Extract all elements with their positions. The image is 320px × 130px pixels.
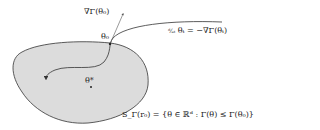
sublevel-set-label: S_Γ(r₀) = {θ ∈ ℝᵈ : Γ(θ) ≤ Γ(θ₀)} bbox=[122, 111, 254, 119]
flow-derivative: ᵈ⁄ₐₜ bbox=[168, 27, 175, 34]
optimum-label: θ* bbox=[85, 77, 94, 85]
theta0-point bbox=[109, 43, 111, 45]
flow-equation-label: ᵈ⁄ₐₜ θₜ = −∇Γ(θₜ) bbox=[168, 27, 227, 35]
theta0-label: θ₀ bbox=[101, 33, 109, 41]
optimum-point bbox=[90, 86, 92, 88]
gradient-vector-arrow bbox=[110, 14, 123, 44]
flow-equation-rhs: θₜ = −∇Γ(θₜ) bbox=[178, 26, 227, 35]
gradient-label: ∇Γ(θ₀) bbox=[84, 8, 109, 16]
